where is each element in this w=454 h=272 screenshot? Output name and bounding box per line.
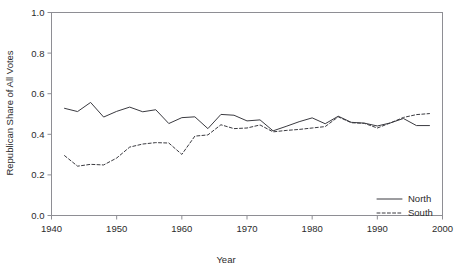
y-axis-title: Republican Share of All Votes — [4, 50, 15, 175]
y-tick-label: 0.6 — [31, 88, 44, 99]
y-tick-label: 0.0 — [31, 210, 44, 221]
y-tick-label: 0.2 — [31, 169, 44, 180]
x-tick-label: 1950 — [106, 223, 127, 234]
y-tick-label: 0.4 — [31, 129, 44, 140]
x-tick-label: 1940 — [41, 223, 62, 234]
y-tick-label: 1.0 — [31, 7, 44, 18]
series-line-south — [65, 114, 430, 167]
series-group — [65, 102, 430, 166]
x-axis: 1940195019601970198019902000 — [41, 216, 453, 234]
legend-label-north: North — [408, 193, 431, 204]
y-axis: 0.00.20.40.60.81.0 — [31, 7, 51, 221]
x-tick-label: 1960 — [171, 223, 192, 234]
line-chart: 0.00.20.40.60.81.0 194019501960197019801… — [0, 0, 454, 272]
chart-legend: NorthSouth — [377, 193, 433, 218]
x-tick-label: 1980 — [302, 223, 323, 234]
x-tick-label: 1970 — [236, 223, 257, 234]
x-axis-title: Year — [216, 254, 235, 265]
legend-label-south: South — [408, 207, 433, 218]
chart-figure: 0.00.20.40.60.81.0 194019501960197019801… — [0, 0, 454, 272]
x-tick-label: 1990 — [367, 223, 388, 234]
x-tick-label: 2000 — [432, 223, 453, 234]
y-tick-label: 0.8 — [31, 48, 44, 59]
